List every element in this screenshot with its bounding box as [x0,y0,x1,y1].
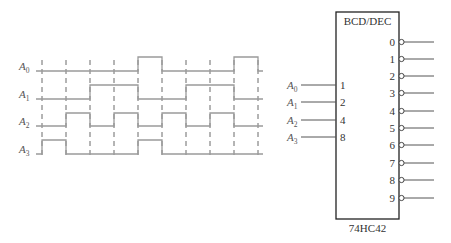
inversion-bubble-icon [399,142,404,147]
input-pin-8: 8 [340,131,346,143]
output-pin-3: 3 [390,87,396,99]
waveform-a2 [36,113,263,126]
output-pin-8: 8 [390,174,396,186]
inversion-bubble-icon [399,56,404,61]
output-pin-7: 7 [390,157,396,169]
inversion-bubble-icon [399,73,404,78]
input-pin-1: 1 [340,79,346,91]
decoder-inputs: A01A12A24A38 [286,79,346,146]
output-pin-1: 1 [390,53,396,65]
decoder-outputs: 0123456789 [390,36,435,204]
waveform-a3 [36,140,263,154]
decoder-title: BCD/DEC [344,15,392,27]
decoder-74hc42: BCD/DEC 74HC42 A01A12A24A38 0123456789 [286,12,434,234]
inversion-bubble-icon [399,125,404,130]
output-pin-6: 6 [390,139,396,151]
inversion-bubble-icon [399,39,404,44]
inversion-bubble-icon [399,90,404,95]
timing-diagram: A0A1A2A3 [18,57,263,158]
waveform-a0 [36,57,263,71]
input-label-a1: A1 [286,96,298,111]
signal-label-a3: A3 [18,143,30,158]
inversion-bubble-icon [399,177,404,182]
bcd-decoder-diagram: A0A1A2A3 BCD/DEC 74HC42 A01A12A24A38 012… [0,0,451,243]
output-pin-9: 9 [390,192,396,204]
inversion-bubble-icon [399,160,404,165]
decoder-part-number: 74HC42 [349,222,386,234]
input-label-a0: A0 [286,79,298,94]
inversion-bubble-icon [399,108,404,113]
input-label-a2: A2 [286,114,298,129]
input-pin-2: 2 [340,96,346,108]
output-pin-0: 0 [390,36,396,48]
signal-label-a2: A2 [18,115,30,130]
waveform-a1 [36,85,263,99]
output-pin-4: 4 [390,105,396,117]
output-pin-5: 5 [390,122,396,134]
output-pin-2: 2 [390,70,396,82]
input-pin-4: 4 [340,114,346,126]
input-label-a3: A3 [286,131,298,146]
signal-label-a1: A1 [18,88,30,103]
inversion-bubble-icon [399,195,404,200]
signal-label-a0: A0 [18,60,30,75]
